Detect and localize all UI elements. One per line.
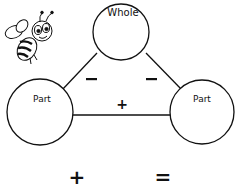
number-bond-diagram: Whole Part Part + + = bbox=[0, 0, 241, 184]
part-left-label: Part bbox=[33, 94, 51, 104]
bee-icon bbox=[3, 11, 53, 64]
line-whole-to-right-part bbox=[146, 53, 182, 90]
part-left-circle bbox=[7, 79, 73, 145]
whole-label: Whole bbox=[107, 7, 138, 18]
minus-left-sign bbox=[86, 78, 97, 80]
plus-middle-sign: + bbox=[116, 96, 128, 112]
minus-right-sign bbox=[146, 78, 157, 80]
equation-plus-sign: + bbox=[69, 165, 86, 184]
equation-equals-sign: = bbox=[155, 165, 172, 184]
part-right-label: Part bbox=[193, 94, 211, 104]
line-whole-to-left-part bbox=[62, 53, 97, 90]
part-right-circle bbox=[170, 80, 234, 144]
